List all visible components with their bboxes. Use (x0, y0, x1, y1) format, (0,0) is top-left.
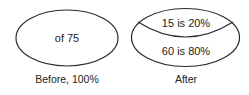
after-group: 15 is 20% 60 is 80% After (132, 9, 240, 86)
after-caption: After (175, 73, 198, 85)
before-inner-text: of 75 (55, 32, 79, 44)
after-bottom-segment-text: 60 is 80% (162, 45, 211, 57)
before-caption: Before, 100% (35, 73, 99, 85)
before-group: of 75 Before, 100% (16, 10, 118, 85)
before-after-diagram: of 75 Before, 100% 15 is 20% 60 is 80% A… (0, 0, 249, 95)
after-top-segment-text: 15 is 20% (162, 17, 211, 29)
